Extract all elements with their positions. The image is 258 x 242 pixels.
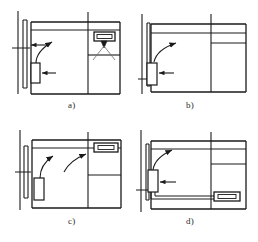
panel-d: [136, 130, 246, 212]
panel-b-curved-arrow: [154, 43, 176, 62]
panel-c-floor-device: [34, 178, 44, 200]
figure-four-panel-floor-plans: [0, 0, 258, 242]
panel-b-wall-device: [147, 63, 157, 85]
panel-b: [138, 14, 246, 94]
panel-a-left-wall: [12, 11, 30, 94]
panel-c-corridor-device: [94, 143, 118, 152]
panel-c-left-wall: [15, 130, 31, 210]
panel-b-partition: [211, 14, 246, 92]
panel-d-conduit-device: [214, 192, 240, 201]
panel-c-curved-arrow-left: [40, 156, 53, 178]
panel-c-curved-arrow-right: [64, 154, 86, 172]
panel-d-wall-device: [148, 170, 158, 192]
panel-c: [15, 130, 121, 210]
panel-label-a: a): [68, 100, 75, 110]
panel-a-wall-device: [31, 63, 40, 83]
panel-a: [12, 11, 120, 94]
panel-d-conduit-run: [151, 192, 216, 199]
panel-label-c: c): [68, 216, 75, 226]
panel-label-b: b): [186, 100, 194, 110]
panel-d-curved-arrow: [153, 150, 172, 170]
panel-b-room-outline: [151, 24, 246, 92]
panel-a-ceiling-device: [94, 32, 115, 48]
panel-a-partition: [88, 12, 120, 94]
panel-label-d: d): [186, 216, 194, 226]
